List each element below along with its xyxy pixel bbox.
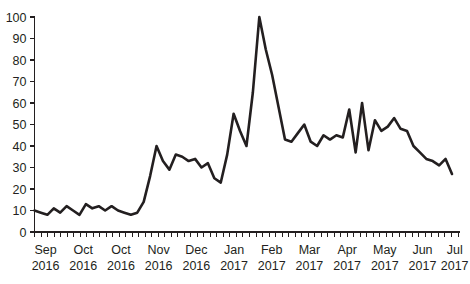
y-tick-label: 10 xyxy=(13,204,27,218)
x-tick-label-month: May xyxy=(373,243,397,257)
x-tick-label-month: Nov xyxy=(148,243,171,257)
y-tick-label: 20 xyxy=(13,183,27,197)
x-tick-label-month: Oct xyxy=(74,243,94,257)
x-tick-label-month: Sep xyxy=(34,243,56,257)
x-tick-label-year: 2017 xyxy=(258,259,286,273)
y-tick-label: 100 xyxy=(6,11,27,25)
x-tick-label-month: Dec xyxy=(185,243,207,257)
y-tick-label: 30 xyxy=(13,161,27,175)
x-tick-label-year: 2016 xyxy=(69,259,97,273)
x-tick-label-year: 2016 xyxy=(32,259,60,273)
x-tick-label-month: Jul xyxy=(447,243,463,257)
x-tick-label-year: 2016 xyxy=(182,259,210,273)
x-tick-label-month: Feb xyxy=(261,243,283,257)
y-tick-label: 60 xyxy=(13,97,27,111)
y-tick-label: 50 xyxy=(13,118,27,132)
line-chart: 0102030405060708090100 Sep2016Oct2016Oct… xyxy=(0,0,470,284)
x-tick-label-year: 2017 xyxy=(371,259,399,273)
chart-canvas: 0102030405060708090100 Sep2016Oct2016Oct… xyxy=(0,0,470,284)
x-tick-label-year: 2017 xyxy=(441,259,469,273)
y-tick-label: 80 xyxy=(13,54,27,68)
y-tick-label: 40 xyxy=(13,140,27,154)
x-tick-label-month: Mar xyxy=(299,243,321,257)
x-tick-label-year: 2017 xyxy=(409,259,437,273)
x-tick-label-year: 2016 xyxy=(107,259,135,273)
x-tick-label-month: Jun xyxy=(412,243,432,257)
x-tick-label-month: Jan xyxy=(224,243,244,257)
x-tick-label-year: 2017 xyxy=(220,259,248,273)
x-tick-label-year: 2017 xyxy=(333,259,361,273)
x-tick-label-year: 2016 xyxy=(145,259,173,273)
x-tick-label-year: 2017 xyxy=(296,259,324,273)
y-tick-label: 70 xyxy=(13,75,27,89)
y-tick-label: 90 xyxy=(13,32,27,46)
plot-background xyxy=(0,0,470,284)
x-tick-label-month: Oct xyxy=(111,243,131,257)
x-tick-label-month: Apr xyxy=(337,243,356,257)
y-tick-label: 0 xyxy=(20,226,27,240)
